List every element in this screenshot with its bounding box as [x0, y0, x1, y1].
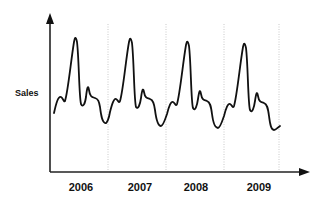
y-axis-label: Sales — [15, 88, 39, 98]
x-tick-2007: 2007 — [120, 181, 160, 193]
gridlines — [108, 24, 279, 171]
x-axis-arrow-icon — [299, 168, 310, 176]
y-axis-arrow-icon — [46, 13, 54, 24]
chart-canvas — [0, 0, 324, 203]
sales-line — [54, 38, 280, 130]
x-tick-2008: 2008 — [176, 181, 216, 193]
x-tick-2009: 2009 — [239, 181, 279, 193]
x-tick-2006: 2006 — [61, 181, 101, 193]
